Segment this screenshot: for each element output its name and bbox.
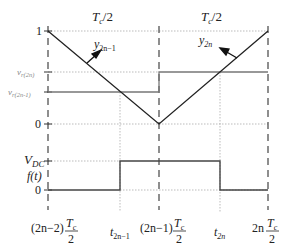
pwm-output — [48, 161, 268, 190]
x-label-2n: 2n — [252, 221, 264, 235]
x-label-t2n: t2n — [214, 225, 225, 241]
x-label-2n-2: (2n−2) — [31, 221, 64, 235]
period-boundaries — [48, 26, 268, 210]
frac-num: Tc — [66, 216, 77, 232]
frac-den: 2 — [269, 232, 275, 246]
y-tick-zero-top: 0 — [35, 117, 41, 131]
frac-num: Tc — [267, 216, 278, 232]
pwm-timing-diagram: Tc/2 Tc/2 y2n−1 y2n 1 vr(2n) vr(2n-1) 0 … — [0, 0, 287, 251]
frac-den: 2 — [68, 232, 74, 246]
x-label-t2n-1: t2n−1 — [110, 225, 130, 241]
period-label-left: Tc/2 — [92, 9, 113, 26]
frac-den: 2 — [176, 232, 182, 246]
carrier-triangle — [48, 31, 268, 124]
f-of-t-label: f(t) — [27, 169, 42, 183]
x-axis-labels: (2n−2) Tc 2 t2n−1 (2n−1) Tc 2 t2n 2n Tc … — [31, 216, 279, 246]
y-tick-vdc: VDC — [24, 152, 45, 169]
y-tick-zero-bottom: 0 — [35, 183, 41, 197]
carrier-label-y2n: y2n — [198, 33, 212, 49]
x-label-2n-1: (2n−1) — [140, 221, 173, 235]
period-label-right: Tc/2 — [201, 9, 222, 26]
carrier-label-y2n-1: y2n−1 — [93, 37, 116, 53]
reference-signal — [48, 72, 268, 92]
y-tick-vr2n-1: vr(2n-1) — [8, 87, 31, 99]
frac-num: Tc — [174, 216, 185, 232]
y-tick-one: 1 — [36, 24, 42, 38]
y-tick-vr2n: vr(2n) — [17, 67, 34, 79]
